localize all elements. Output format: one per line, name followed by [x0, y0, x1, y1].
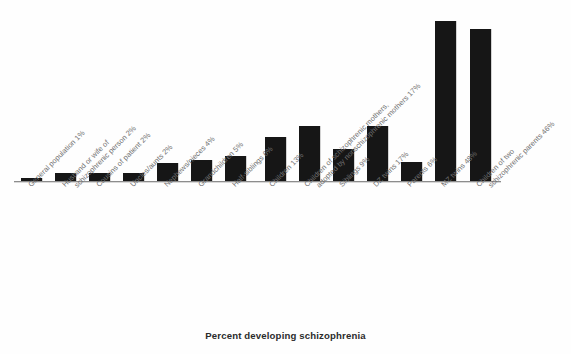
schizophrenia-risk-figure: General population 1% Husband or wife of…: [0, 0, 571, 354]
bar-mz-twins: [435, 21, 456, 182]
category-axis-labels: General population 1% Husband or wife of…: [0, 183, 571, 333]
figure-caption: Percent developing schizophrenia: [0, 330, 571, 341]
